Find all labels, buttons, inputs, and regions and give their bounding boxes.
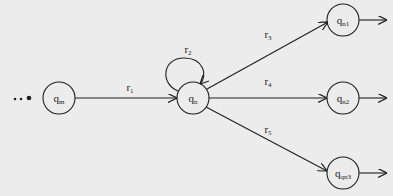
edge-label-r1: r1 [126,82,133,95]
state-diagram: qm qn qn1 qn2 qqn3 r1 r2 r3 r4 r5 [0,0,393,196]
continuation-dots-icon [14,96,32,101]
node-label-qn1: qn1 [337,15,350,28]
node-label-qn: qn [189,93,198,106]
edge-label-r4: r4 [264,76,271,89]
edge-label-r3: r3 [264,29,271,42]
node-label-qn2: qn2 [337,93,350,106]
node-label-qn3: qqn3 [335,168,351,181]
edge-r2-self-loop [166,58,204,91]
edge-label-r2: r2 [184,44,191,57]
edge-label-r5: r5 [264,124,271,137]
node-label-qm: qm [54,93,65,106]
edge-r5-arrow [206,107,327,171]
